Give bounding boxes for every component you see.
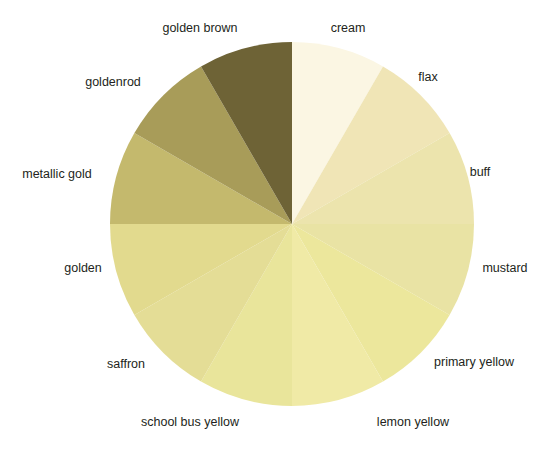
pie-label-golden: golden [64,262,102,275]
pie-label-metallic-gold: metallic gold [22,168,91,181]
pie-label-primary-yellow: primary yellow [434,356,514,369]
pie-label-golden-brown: golden brown [162,22,237,35]
pie-label-lemon-yellow: lemon yellow [377,416,449,429]
pie-chart-canvas [0,0,551,450]
pie-chart-figure: creamflaxbuffmustardprimary yellowlemon … [0,0,551,450]
pie-label-goldenrod: goldenrod [85,76,141,89]
pie-label-school-bus-yellow: school bus yellow [141,416,239,429]
pie-label-flax: flax [418,71,437,84]
pie-label-buff: buff [470,166,491,179]
pie-label-mustard: mustard [482,262,527,275]
pie-label-cream: cream [331,22,366,35]
pie-chart-svg [0,0,551,450]
pie-label-saffron: saffron [107,358,145,371]
